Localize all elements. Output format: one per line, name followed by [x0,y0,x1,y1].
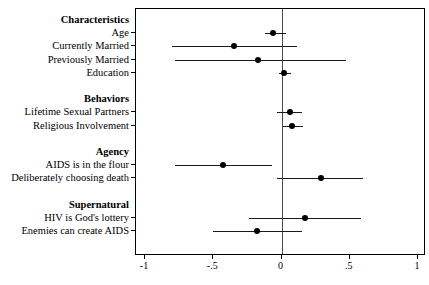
point-estimate-marker [255,57,261,63]
row-label: Currently Married [52,40,129,51]
row-label: Religious Involvement [33,119,129,130]
row-label: Enemies can create AIDS [21,225,129,236]
x-axis-tick [417,255,418,259]
y-axis-tick [131,32,135,33]
point-estimate-marker [220,162,226,168]
row-label: Deliberately choosing death [11,172,129,183]
point-estimate-marker [281,70,287,76]
y-axis-tick [131,59,135,60]
forest-plot-figure: CharacteristicsAgeCurrently MarriedPrevi… [0,0,429,285]
x-axis-tick [349,255,350,259]
y-axis-tick [131,164,135,165]
point-estimate-marker [289,123,295,129]
plot-area [135,8,425,255]
x-axis-tick-label: .5 [345,260,353,271]
row-label: Lifetime Sexual Partners [25,106,129,117]
group-heading: Supernatural [69,198,129,209]
point-estimate-marker [302,215,308,221]
x-axis-tick-label: -1 [140,260,148,271]
group-heading: Behaviors [84,93,129,104]
row-label: Previously Married [48,53,129,64]
point-estimate-marker [270,30,276,36]
x-axis-tick [281,255,282,259]
group-heading: Characteristics [61,14,129,25]
y-axis-tick [131,45,135,46]
point-estimate-marker [231,43,237,49]
y-axis-tick [131,72,135,73]
x-axis-tick [144,255,145,259]
point-estimate-marker [287,109,293,115]
point-estimate-marker [254,228,260,234]
row-label: HIV is God's lottery [44,212,129,223]
row-label: Age [112,27,130,38]
y-axis-tick [131,111,135,112]
x-axis-tick-label: 1 [415,260,420,271]
row-label: Education [86,66,129,77]
row-label: AIDS is in the flour [46,159,129,170]
x-axis-tick [212,255,213,259]
x-axis-tick-label: 0 [278,260,283,271]
x-axis: -1-.50.51 [135,255,425,283]
group-heading: Agency [96,146,129,157]
x-axis-tick-label: -.5 [207,260,218,271]
y-axis-tick [131,177,135,178]
point-estimate-marker [318,175,324,181]
y-axis-tick [131,217,135,218]
y-axis-tick [131,230,135,231]
row-label-column: CharacteristicsAgeCurrently MarriedPrevi… [0,8,133,255]
y-axis-tick [131,125,135,126]
